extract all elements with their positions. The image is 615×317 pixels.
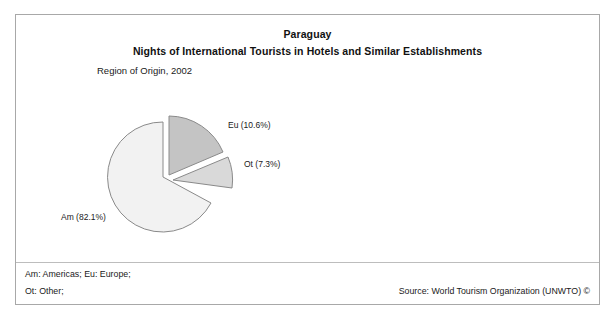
- chart-caption: Region of Origin, 2002: [97, 65, 192, 76]
- chart-subtitle: Nights of International Tourists in Hote…: [16, 44, 599, 59]
- chart-frame: Paraguay Nights of International Tourist…: [15, 14, 600, 305]
- pie-label-am: Am (82.1%): [61, 212, 106, 222]
- pie-label-eu: Eu (10.6%): [228, 120, 271, 130]
- footer-row-abbrev-2: Ot: Other; Source: World Tourism Organiz…: [25, 286, 590, 303]
- footer: Am: Americas; Eu: Europe; Ot: Other; Sou…: [16, 263, 599, 304]
- source-attribution: Source: World Tourism Organization (UNWT…: [399, 286, 590, 296]
- page-title: Paraguay: [16, 27, 599, 41]
- pie-chart-area: Eu (10.6%) Ot (7.3%) Am (82.1%): [16, 87, 601, 237]
- footer-row-abbrev-1: Am: Americas; Eu: Europe;: [25, 269, 590, 286]
- abbreviation-legend-line-1: Am: Americas; Eu: Europe;: [25, 269, 131, 279]
- title-block: Paraguay Nights of International Tourist…: [16, 27, 599, 59]
- pie-label-ot: Ot (7.3%): [244, 159, 280, 169]
- abbreviation-legend-line-2: Ot: Other;: [25, 286, 64, 296]
